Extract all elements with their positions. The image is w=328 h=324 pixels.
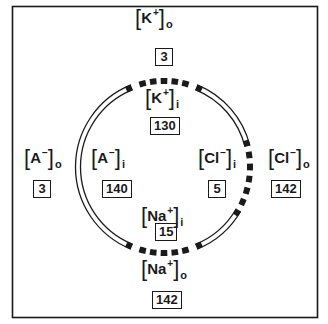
- ion-label-k-out: [K+]o: [135, 4, 173, 33]
- value-box-na-out: 142: [152, 291, 182, 309]
- value-box-cl-in: 5: [208, 180, 226, 198]
- na-channel-segment: [172, 252, 179, 253]
- membrane-left-end-cap: [126, 87, 131, 89]
- membrane-left-end-cap: [126, 244, 131, 246]
- value-box-k-out: 3: [155, 48, 173, 66]
- cl-channel-segment: [249, 176, 250, 183]
- k-channel-segment: [182, 83, 188, 85]
- membrane-lower-right-end-cap: [235, 210, 238, 215]
- value-box-a-in: 140: [102, 180, 132, 198]
- cl-channel-segment: [241, 199, 244, 205]
- ion-label-na-out: [Na+]o: [141, 255, 187, 284]
- membrane-upper-right-end-cap: [246, 140, 248, 146]
- na-channel-segment: [139, 249, 145, 251]
- k-channel-segment: [172, 81, 179, 82]
- value-box-a-out: 3: [33, 180, 51, 198]
- ion-label-k-in: [K+]i: [145, 84, 179, 113]
- value-box-cl-out: 142: [271, 180, 301, 198]
- ion-label-a-in: [A−]i: [91, 144, 125, 173]
- ion-label-cl-out: [Cl−]o: [268, 144, 310, 173]
- k-channel-segment: [150, 81, 157, 82]
- ion-label-a-out: [A−]o: [24, 144, 62, 173]
- cl-channel-segment: [246, 188, 248, 194]
- value-box-k-in: 130: [150, 117, 180, 135]
- membrane-lower-right-end-cap: [196, 244, 201, 246]
- ion-label-cl-in: [Cl−]i: [198, 144, 236, 173]
- value-box-na-in: 15: [155, 223, 177, 241]
- na-channel-segment: [182, 249, 188, 251]
- membrane-upper-right-end-cap: [196, 87, 201, 89]
- na-channel-segment: [150, 252, 157, 253]
- cl-channel-segment: [249, 152, 250, 159]
- diagram: [K+]o 3 [K+]i 130 [A−]o 3 [A−]i 140 [Cl−…: [0, 0, 328, 324]
